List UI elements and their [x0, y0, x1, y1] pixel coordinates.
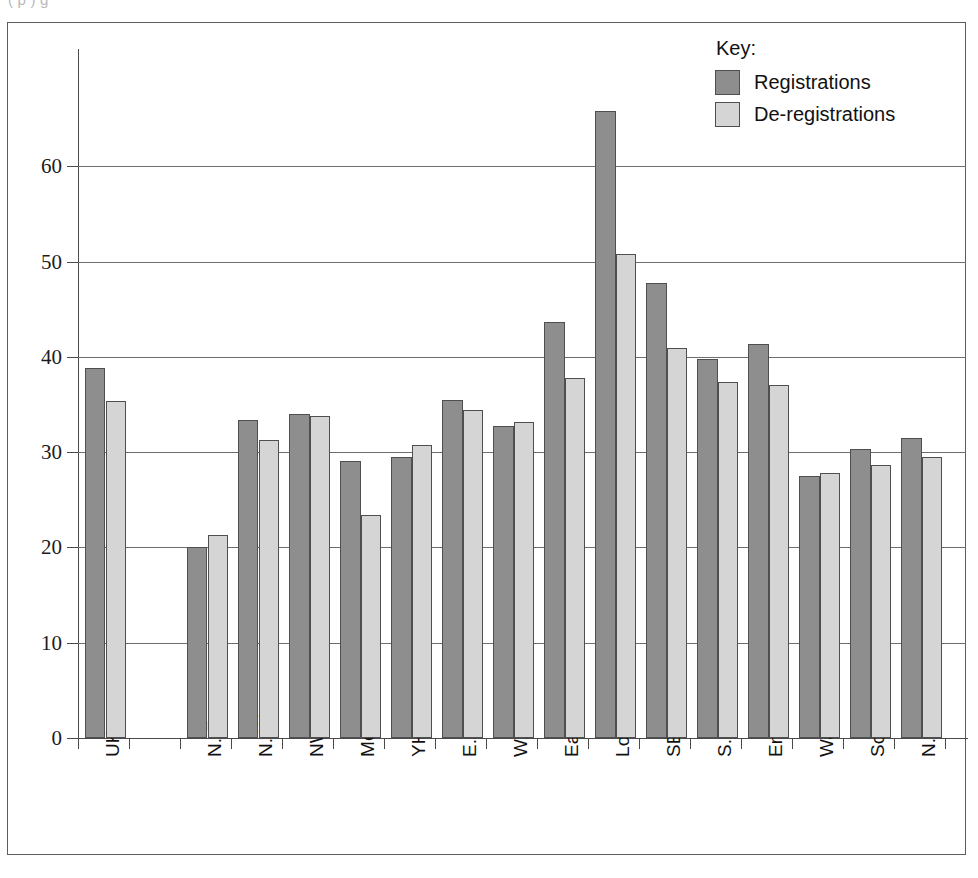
- bar-deregistrations: [514, 422, 534, 738]
- bar-registrations: [391, 457, 411, 738]
- y-axis-label: 60: [41, 154, 62, 179]
- y-axis-label: 20: [41, 535, 62, 560]
- y-axis-label: 40: [41, 344, 62, 369]
- bar-deregistrations: [106, 401, 126, 738]
- chart-page: ( p ) g Key: Registrations De-registrati…: [0, 0, 978, 878]
- bar-registrations: [442, 400, 462, 738]
- bar-registrations: [238, 420, 258, 738]
- x-axis-tick: [792, 738, 793, 749]
- bar-deregistrations: [259, 440, 279, 738]
- bar-registrations: [187, 547, 207, 738]
- bar-registrations: [544, 322, 564, 738]
- bar-registrations: [340, 461, 360, 738]
- x-axis-tick: [180, 738, 181, 749]
- bar-deregistrations: [361, 515, 381, 738]
- x-axis-tick: [945, 738, 946, 749]
- y-axis-tick: [67, 452, 78, 453]
- x-axis-tick: [231, 738, 232, 749]
- x-axis-tick: [435, 738, 436, 749]
- bar-deregistrations: [769, 385, 789, 738]
- bar-deregistrations: [208, 535, 228, 738]
- bar-deregistrations: [412, 445, 432, 738]
- bar-deregistrations: [718, 382, 738, 738]
- y-axis-label: 10: [41, 630, 62, 655]
- x-axis-tick: [741, 738, 742, 749]
- y-axis-tick: [67, 738, 78, 739]
- y-axis-tick: [67, 643, 78, 644]
- x-axis-tick: [129, 738, 130, 749]
- scan-artifact-text: ( p ) g: [8, 0, 608, 9]
- y-axis-tick: [67, 262, 78, 263]
- bar-deregistrations: [310, 416, 330, 738]
- x-axis-tick: [282, 738, 283, 749]
- bar-registrations: [799, 476, 819, 738]
- legend-title: Key:: [715, 37, 955, 60]
- plot-area: 0102030405060UKN. EastN. WestNW (GOR)Mer…: [78, 71, 968, 738]
- x-axis-tick: [537, 738, 538, 749]
- bar-registrations: [595, 111, 615, 738]
- bar-deregistrations: [565, 378, 585, 738]
- gridline: [78, 262, 966, 263]
- figure-frame: Key: Registrations De-registrations 0102…: [7, 22, 966, 855]
- bar-registrations: [493, 426, 513, 738]
- y-axis-label: 30: [41, 440, 62, 465]
- bar-registrations: [289, 414, 309, 738]
- bar-registrations: [748, 344, 768, 738]
- x-axis-tick: [588, 738, 589, 749]
- x-axis-tick: [690, 738, 691, 749]
- x-axis-tick: [843, 738, 844, 749]
- x-axis-tick: [384, 738, 385, 749]
- y-axis-tick: [67, 547, 78, 548]
- bar-deregistrations: [667, 348, 687, 738]
- bar-registrations: [850, 449, 870, 738]
- x-axis-tick: [333, 738, 334, 749]
- y-axis-line: [78, 49, 79, 738]
- x-axis-tick: [486, 738, 487, 749]
- bar-deregistrations: [871, 465, 891, 738]
- y-axis-tick: [67, 357, 78, 358]
- bar-registrations: [85, 368, 105, 738]
- bar-deregistrations: [616, 254, 636, 738]
- y-axis-label: 0: [52, 726, 63, 751]
- gridline: [78, 357, 966, 358]
- bar-registrations: [697, 359, 717, 738]
- bar-registrations: [901, 438, 921, 738]
- y-axis-label: 50: [41, 249, 62, 274]
- bar-deregistrations: [922, 457, 942, 738]
- bar-registrations: [646, 283, 666, 738]
- bar-deregistrations: [463, 410, 483, 738]
- y-axis-tick: [67, 166, 78, 167]
- x-axis-tick: [639, 738, 640, 749]
- gridline: [78, 166, 966, 167]
- x-axis-tick: [78, 738, 79, 749]
- bar-deregistrations: [820, 473, 840, 738]
- x-axis-tick: [894, 738, 895, 749]
